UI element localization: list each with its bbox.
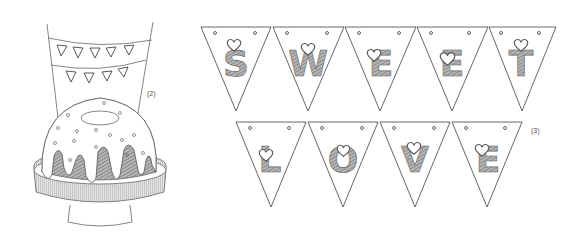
- svg-text:L: L: [259, 139, 282, 180]
- cake-illustration: [34, 22, 167, 226]
- pennant-S: S: [201, 27, 271, 111]
- pennant-E1: E: [345, 27, 416, 111]
- pennant-E3: E: [452, 122, 522, 207]
- mini-garland-top: [57, 45, 134, 58]
- bunting-row-top: S W E E T: [201, 27, 556, 111]
- pennant-O: O: [308, 122, 378, 207]
- pennant-T: T: [489, 27, 556, 111]
- garland-string-bottom: [51, 60, 146, 69]
- svg-text:E: E: [369, 43, 394, 84]
- cake-center-hole: [81, 111, 119, 125]
- bunting-row-bottom: L O V E: [236, 122, 522, 207]
- figure-label-3: (3): [531, 127, 540, 134]
- garland-string-top: [48, 38, 152, 45]
- figure-label-2: (2): [147, 90, 156, 97]
- pennant-V: V: [380, 122, 450, 207]
- svg-text:E: E: [440, 43, 465, 84]
- pennant-W: W: [273, 27, 344, 111]
- sketch-canvas: S W E E T: [0, 0, 581, 239]
- svg-text:O: O: [328, 139, 359, 180]
- right-pole: [138, 22, 153, 113]
- pennant-L: L: [236, 122, 306, 207]
- pennant-E2: E: [417, 27, 488, 111]
- mini-garland-bottom: [66, 67, 128, 83]
